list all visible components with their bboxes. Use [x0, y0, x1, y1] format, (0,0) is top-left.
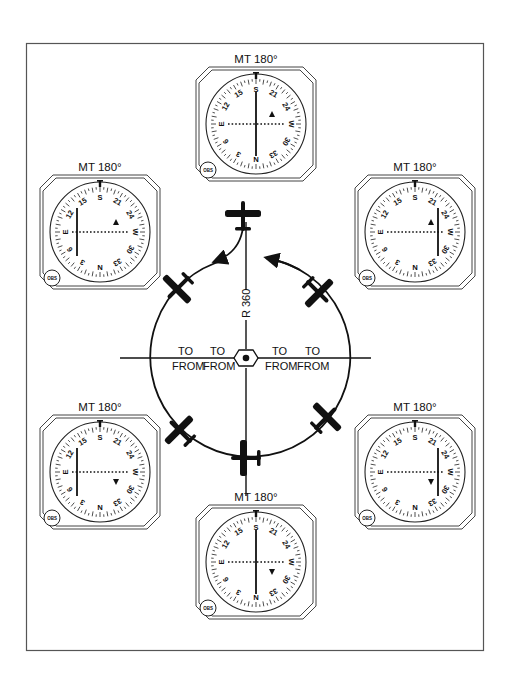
obs-knob-label: OBS: [47, 516, 57, 521]
vor-indicator-lower-right: MT 180°S2124W3033N36E1215OBS: [355, 401, 475, 529]
course-caption: MT 180°: [78, 401, 121, 413]
track-arrow-left: [216, 227, 243, 261]
radial-label: R 360: [240, 289, 252, 318]
dial-label: N: [97, 263, 102, 272]
aircraft-icon-bottom: [231, 440, 261, 476]
from-label-1: FROM: [172, 360, 204, 372]
to-label-1: TO: [178, 345, 194, 357]
from-label-4: FROM: [297, 360, 329, 372]
course-caption: MT 180°: [393, 161, 436, 173]
dial-label: N: [97, 503, 102, 512]
track-arrow-right: [268, 258, 300, 270]
aircraft-icon-top: [225, 201, 261, 231]
to-label-4: TO: [305, 345, 321, 357]
vor-indicator-lower-left: MT 180°S2124W3033N36E1215OBS: [40, 401, 160, 529]
dial-label: N: [412, 503, 417, 512]
dial-label: W: [446, 228, 455, 236]
dial-label: E: [217, 121, 226, 126]
dial-label: W: [131, 468, 140, 476]
vor-indicator-top: MT 180°S2124W3033N36E1215OBS: [196, 53, 316, 181]
vor-indicator-bottom: MT 180°S2124W3033N36E1215OBS: [196, 491, 316, 619]
dial-label: W: [446, 468, 455, 476]
dial-label: S: [97, 433, 102, 442]
dial-label: N: [412, 263, 417, 272]
aircraft-icon-upper-right: [294, 268, 341, 315]
from-label-3: FROM: [265, 360, 297, 372]
dial-label: E: [61, 229, 70, 234]
aircraft-icon-upper-left: [155, 264, 202, 311]
dial-label: S: [412, 193, 417, 202]
dial-label: S: [97, 193, 102, 202]
course-caption: MT 180°: [393, 401, 436, 413]
course-caption: MT 180°: [78, 161, 121, 173]
vor-indicator-upper-right: MT 180°S2124W3033N36E1215OBS: [355, 161, 475, 289]
aircraft-icon-lower-right: [302, 395, 349, 442]
vor-indicator-upper-left: MT 180°S2124W3033N36E1215OBS: [40, 161, 160, 289]
course-caption: MT 180°: [234, 53, 277, 65]
dial-label: W: [287, 558, 296, 566]
obs-knob-label: OBS: [362, 516, 372, 521]
dial-label: E: [376, 229, 385, 234]
obs-knob-label: OBS: [203, 606, 213, 611]
obs-knob-label: OBS: [47, 276, 57, 281]
dial-label: E: [217, 559, 226, 564]
dial-label: E: [376, 469, 385, 474]
to-label-3: TO: [272, 345, 288, 357]
vor-station-icon: [234, 349, 258, 368]
to-label-2: TO: [210, 345, 226, 357]
course-caption: MT 180°: [234, 491, 277, 503]
obs-knob-label: OBS: [203, 168, 213, 173]
aircraft-icon-lower-left: [157, 408, 204, 455]
dial-label: W: [131, 228, 140, 236]
dial-label: E: [61, 469, 70, 474]
obs-knob-label: OBS: [362, 276, 372, 281]
dial-label: S: [412, 433, 417, 442]
vor-diagram: R 360 TO FROM TO FROM TO FROM TO FROM MT…: [0, 0, 511, 688]
from-label-2: FROM: [203, 360, 235, 372]
dial-label: W: [287, 120, 296, 128]
